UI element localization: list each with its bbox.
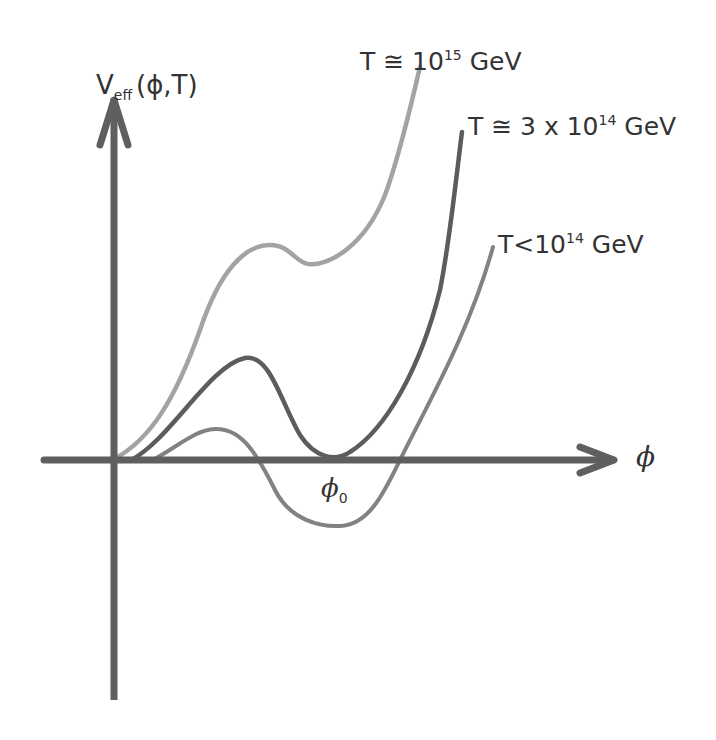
curve-high-temperature bbox=[114, 67, 420, 459]
x-axis-label: ϕ bbox=[636, 440, 655, 473]
y-axis-label: Veff(ϕ,T) bbox=[96, 70, 198, 103]
label-curve-low: T<1014 GeV bbox=[497, 230, 644, 259]
curve-mid-temperature bbox=[131, 132, 462, 460]
label-curve-mid: T ≅ 3 x 1014 GeV bbox=[467, 112, 676, 141]
minimum-label: ϕ0 bbox=[321, 473, 348, 506]
label-curve-high: T ≅ 1015 GeV bbox=[359, 47, 522, 76]
potential-diagram: Veff(ϕ,T) ϕ ϕ0 T ≅ 1015 GeV T ≅ 3 x 1014… bbox=[0, 0, 716, 740]
